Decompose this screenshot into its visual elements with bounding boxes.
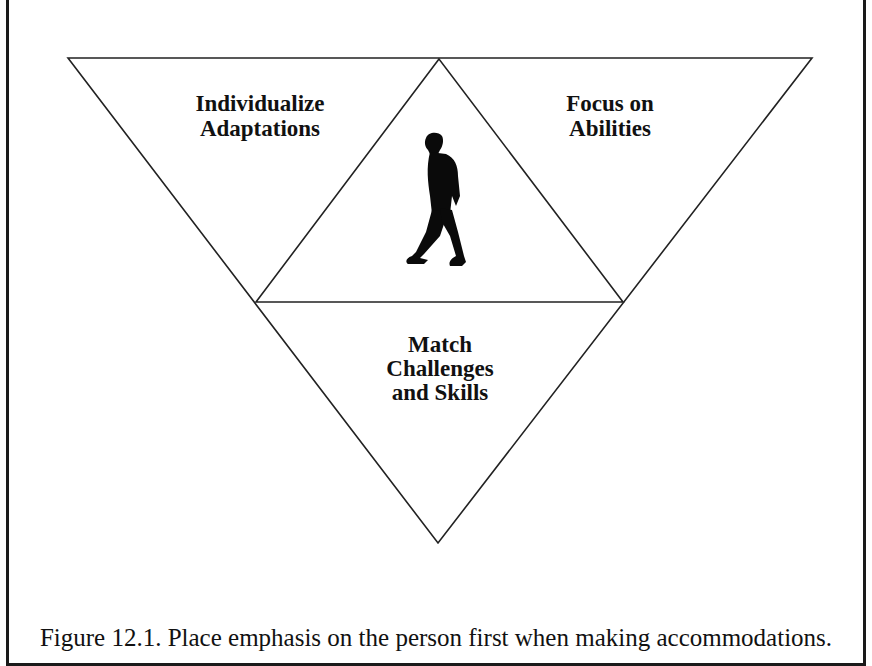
segment-label-line: Focus on: [530, 91, 690, 116]
segment-match-challenges-and-skills: Match Challenges and Skills: [360, 333, 520, 405]
segment-label-line: Challenges: [360, 357, 520, 381]
segment-individualize-adaptations: Individualize Adaptations: [160, 91, 360, 141]
figure-caption: Figure 12.1. Place emphasis on the perso…: [0, 624, 872, 652]
segment-label-line: Individualize: [160, 91, 360, 116]
segment-label-line: Match: [360, 333, 520, 357]
walking-person-icon: [406, 133, 466, 266]
segment-label-line: Abilities: [530, 116, 690, 141]
segment-label-line: Adaptations: [160, 116, 360, 141]
segment-label-line: and Skills: [360, 381, 520, 405]
segment-focus-on-abilities: Focus on Abilities: [530, 91, 690, 141]
